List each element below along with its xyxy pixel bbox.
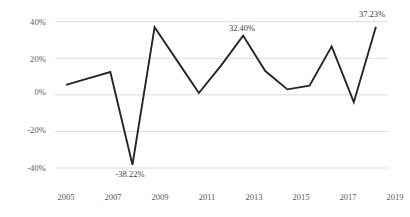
- xtick-label-2013: 2013: [234, 192, 274, 202]
- ytick-label-neg40: -40%: [8, 163, 46, 173]
- data-label-2008-low: -38.22%: [100, 169, 160, 179]
- chart-plot-area: [0, 0, 410, 217]
- xtick-label-2007: 2007: [93, 192, 133, 202]
- xtick-label-2019: 2019: [375, 192, 410, 202]
- xtick-label-2011: 2011: [187, 192, 227, 202]
- data-label-2013-peak: 32.40%: [212, 23, 272, 33]
- line-chart: 40% 20% 0% -20% -40% 2005 2007 2009 2011…: [0, 0, 410, 217]
- ytick-label-neg20: -20%: [8, 125, 46, 135]
- ytick-label-0: 0%: [8, 87, 46, 97]
- xtick-label-2005: 2005: [46, 192, 86, 202]
- ytick-label-40: 40%: [8, 17, 46, 27]
- xtick-label-2015: 2015: [281, 192, 321, 202]
- data-series-line: [66, 27, 376, 165]
- data-label-2019-peak: 37.23%: [342, 9, 402, 19]
- ytick-label-20: 20%: [8, 54, 46, 64]
- xtick-label-2017: 2017: [328, 192, 368, 202]
- gridline-group: [55, 22, 387, 168]
- xtick-label-2009: 2009: [140, 192, 180, 202]
